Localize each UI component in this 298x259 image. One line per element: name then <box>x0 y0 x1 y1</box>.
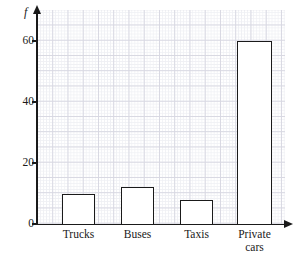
y-tick-label: 60 <box>23 35 35 47</box>
y-tick-label: 0 <box>28 218 34 230</box>
y-tick-label: 20 <box>23 157 35 169</box>
x-tick-label: Private cars <box>215 228 295 254</box>
y-axis-label: f <box>24 6 27 18</box>
y-tick-label: 40 <box>23 96 35 108</box>
bar <box>180 200 213 224</box>
bar <box>237 41 272 224</box>
bar <box>121 187 154 224</box>
x-axis-arrow <box>284 220 293 228</box>
y-axis-line <box>36 12 38 225</box>
y-axis-arrow <box>33 5 41 14</box>
bar-chart: f 0204060 TrucksBusesTaxisPrivate cars <box>0 0 298 259</box>
bar <box>62 194 95 225</box>
